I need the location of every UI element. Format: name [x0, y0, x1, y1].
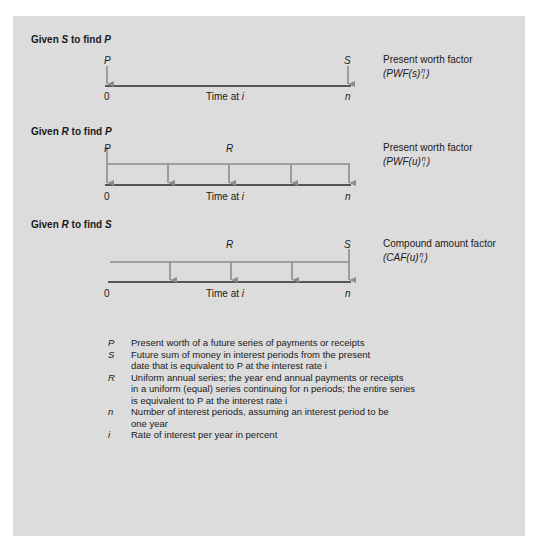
diagram-2-axis-label: Time at i [206, 191, 244, 202]
legend-s-line-2: date that is equivalent to P at the inte… [131, 360, 327, 371]
legend-symbol-s: S [108, 349, 114, 360]
diagram-2-heading: Given R to find P [31, 126, 112, 137]
legend-symbol-n: n [108, 406, 113, 417]
legend-r-line-2: in a uniform (equal) series continuing f… [131, 383, 415, 394]
diagram-3-axis-end: n [345, 288, 351, 299]
diagram-1-axis-label: Time at i [206, 91, 244, 102]
diagram-3-factor-name: Compound amount factor [383, 238, 496, 249]
diagram-2-axis-start: 0 [104, 191, 110, 202]
diagram-2-factor-name: Present worth factor [383, 142, 472, 153]
legend-symbol-r: R [108, 372, 115, 383]
diagram-3-label-s: S [344, 239, 351, 250]
legend-s-line-1: Future sum of money in interest periods … [131, 349, 370, 360]
diagram-3-lines [108, 249, 351, 282]
legend-n-line-2: one year [131, 418, 168, 429]
diagram-2-axis-end: n [345, 191, 351, 202]
legend-r-line-1: Uniform annual series; the year end annu… [131, 372, 403, 383]
diagram-3-heading: Given R to find S [31, 219, 112, 230]
diagram-1-axis-start: 0 [104, 91, 110, 102]
legend-r-line-3: is equivalent to P at the interest rate … [131, 395, 287, 406]
legend-n-line-1: Number of interest periods, assuming an … [131, 406, 389, 417]
diagram-3-axis-start: 0 [104, 288, 110, 299]
diagram-1-axis-end: n [345, 91, 351, 102]
diagram-2-factor-formula: (PWF(u)ni) [383, 156, 430, 168]
diagram-1-label-p: P [104, 55, 111, 66]
diagram-1-lines [105, 66, 351, 86]
diagram-3-factor-formula: (CAF(u)ni) [383, 252, 428, 264]
diagram-1-factor-name: Present worth factor [383, 54, 472, 65]
diagram-1-factor-formula: (PWF(s)ni) [383, 68, 429, 80]
cash-flow-diagrams [0, 0, 536, 550]
diagram-2-label-p: P [104, 143, 111, 154]
legend-i-line-1: Rate of interest per year in percent [131, 429, 277, 440]
legend-symbol-p: P [108, 337, 114, 348]
legend-symbol-i: i [108, 429, 110, 440]
diagram-3-label-r: R [226, 239, 233, 250]
diagram-1-heading: Given S to find P [31, 34, 111, 45]
diagram-1-label-s: S [344, 55, 351, 66]
diagram-2-label-r: R [226, 143, 233, 154]
legend-p-line-1: Present worth of a future series of paym… [131, 337, 364, 348]
diagram-3-axis-label: Time at i [206, 288, 244, 299]
